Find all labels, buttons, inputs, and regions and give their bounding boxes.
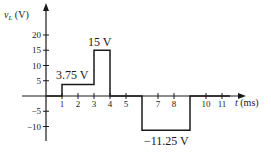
x-tick-label: 8: [172, 99, 177, 109]
x-axis-label: t (ms): [235, 97, 259, 109]
y-tick-label: 15: [32, 45, 42, 55]
y-tick-label: 5: [37, 76, 42, 86]
x-tick-label: 3: [92, 99, 97, 109]
x-tick-label: 11: [218, 99, 227, 109]
y-axis-label: vL (V): [4, 9, 29, 22]
pulse-label-15v: 15 V: [88, 35, 112, 49]
x-tick-label: 2: [76, 99, 81, 109]
y-tick-label: −5: [31, 106, 41, 116]
x-tick-label: 1: [60, 99, 65, 109]
waveform-line: [46, 50, 230, 130]
pulse-label-3-75v: 3.75 V: [56, 68, 89, 82]
x-tick-label: 4: [108, 99, 113, 109]
x-tick-label: 5: [124, 99, 129, 109]
x-tick-label: 7: [156, 99, 161, 109]
pulse-label-neg-11-25v: −11.25 V: [144, 134, 189, 148]
y-axis-arrow-icon: [43, 3, 49, 11]
x-tick-label: 10: [202, 99, 212, 109]
y-tick-label: 20: [32, 30, 42, 40]
y-tick-label: 10: [32, 61, 42, 71]
y-tick-label: −10: [27, 122, 42, 132]
voltage-waveform-chart: vL (V) t (ms) 2015105−5−10 12345781011 3…: [0, 0, 271, 159]
